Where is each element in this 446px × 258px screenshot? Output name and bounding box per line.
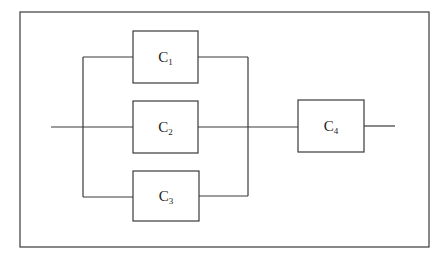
c3-subscript: 3 (169, 196, 174, 206)
c4-letter: C (324, 118, 334, 134)
c1-letter: C (158, 49, 168, 65)
c3-label: C3 (133, 189, 199, 206)
c2-subscript: 2 (168, 127, 173, 137)
c1-label: C1 (133, 50, 198, 67)
c4-subscript: 4 (334, 126, 339, 136)
c3-letter: C (159, 188, 169, 204)
c2-label: C2 (133, 120, 198, 137)
diagram-canvas (0, 0, 446, 258)
outer-frame (20, 12, 429, 247)
c4-label: C4 (298, 119, 364, 136)
c2-letter: C (158, 119, 168, 135)
c1-subscript: 1 (168, 57, 173, 67)
